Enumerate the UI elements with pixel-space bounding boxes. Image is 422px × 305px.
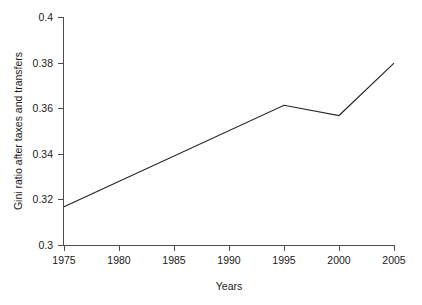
y-tick-label-3: 0.36 [33, 102, 54, 114]
x-axis-title: Years [216, 280, 242, 292]
x-tick-label-4: 1995 [272, 254, 296, 266]
chart-canvas: 0.3 0.32 0.34 0.36 0.38 0.4 1975 1980 19… [0, 0, 422, 305]
y-tick-label-0: 0.3 [38, 239, 53, 251]
x-tick-label-0: 1975 [52, 254, 76, 266]
y-tick-label-1: 0.32 [33, 193, 54, 205]
y-axis-title: Gini ratio after taxes and transfers [12, 52, 24, 210]
x-tick-label-6: 2005 [382, 254, 406, 266]
y-tick-label-5: 0.4 [38, 11, 53, 23]
y-tick-label-2: 0.34 [33, 148, 54, 160]
x-tick-label-2: 1985 [162, 254, 186, 266]
x-tick-label-5: 2000 [327, 254, 351, 266]
line-chart-figure: 0.3 0.32 0.34 0.36 0.38 0.4 1975 1980 19… [0, 0, 422, 305]
x-tick-label-1: 1980 [107, 254, 131, 266]
y-tick-label-4: 0.38 [33, 57, 54, 69]
x-tick-label-3: 1990 [217, 254, 241, 266]
